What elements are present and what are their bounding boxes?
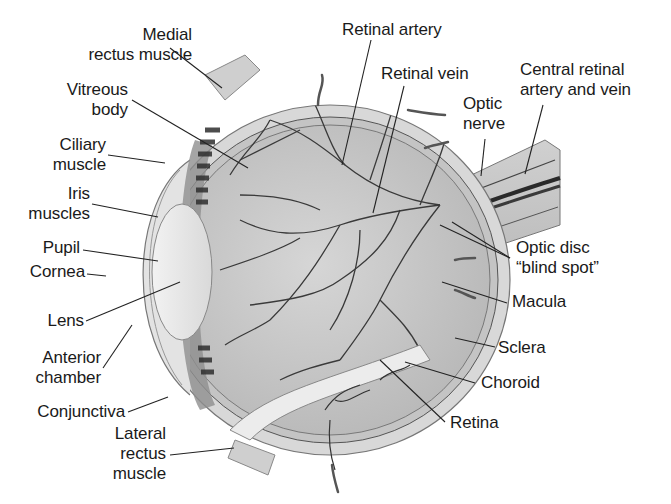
label-line: Iris	[5, 184, 90, 204]
label-line: Optic disc	[516, 238, 599, 258]
label-choroid: Choroid	[481, 373, 540, 393]
label-line: muscle	[70, 464, 166, 484]
label-line: muscle	[20, 155, 106, 175]
label-conjunctiva: Conjunctiva	[5, 402, 125, 422]
label-retinal-artery: Retinal artery	[342, 20, 442, 40]
label-retina: Retina	[450, 413, 499, 433]
label-line: Vitreous	[30, 80, 128, 100]
label-line: Lateral	[70, 424, 166, 444]
label-line: Central retinal	[520, 60, 631, 80]
label-line: muscles	[5, 204, 90, 224]
label-line: Medial	[72, 25, 192, 45]
label-sclera: Sclera	[498, 338, 546, 358]
label-line: chamber	[5, 368, 101, 388]
eye-anatomy-diagram: Medial rectus muscle Vitreous body Cilia…	[0, 0, 671, 504]
label-pupil: Pupil	[10, 238, 80, 258]
label-lateral-rectus-muscle: Lateral rectus muscle	[70, 424, 166, 484]
label-anterior-chamber: Anterior chamber	[5, 348, 101, 388]
label-line: body	[30, 100, 128, 120]
label-line: rectus muscle	[72, 45, 192, 65]
label-line: “blind spot”	[516, 258, 599, 278]
label-ciliary-muscle: Ciliary muscle	[20, 135, 106, 175]
label-medial-rectus-muscle: Medial rectus muscle	[72, 25, 192, 65]
label-iris-muscles: Iris muscles	[5, 184, 90, 224]
label-vitreous-body: Vitreous body	[30, 80, 128, 120]
label-line: Ciliary	[20, 135, 106, 155]
label-line: Optic	[463, 94, 505, 114]
label-line: rectus	[70, 444, 166, 464]
label-central-retinal-artery-and-vein: Central retinal artery and vein	[520, 60, 631, 100]
label-cornea: Cornea	[5, 262, 85, 282]
label-line: artery and vein	[520, 80, 631, 100]
label-line: Anterior	[5, 348, 101, 368]
label-optic-nerve: Optic nerve	[463, 94, 505, 134]
label-lens: Lens	[10, 311, 84, 331]
label-line: nerve	[463, 114, 505, 134]
label-optic-disc: Optic disc “blind spot”	[516, 238, 599, 278]
label-retinal-vein: Retinal vein	[381, 64, 469, 84]
label-macula: Macula	[512, 292, 566, 312]
